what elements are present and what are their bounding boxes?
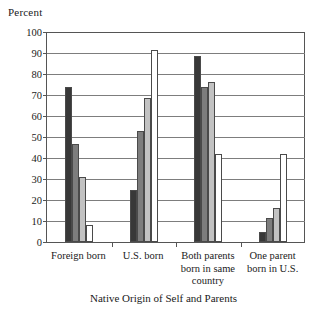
x-axis-label-line: One parent [241, 250, 304, 263]
bar [79, 177, 86, 242]
bar [280, 154, 287, 242]
y-axis-tick-label: 40 [32, 153, 43, 164]
x-axis-category-labels: Foreign bornU.S. bornBoth parentsborn in… [46, 250, 305, 288]
bar-group [176, 32, 241, 242]
bar-chart: Percent 0102030405060708090100 Foreign b… [0, 0, 327, 326]
x-axis-category-label: Foreign born [46, 250, 111, 288]
x-axis-label-line: born in same [177, 263, 240, 276]
y-axis-tick-label: 60 [32, 111, 43, 122]
y-axis-tick-label: 0 [37, 237, 42, 248]
bar-group [241, 32, 306, 242]
bar-group [47, 32, 112, 242]
y-axis-tick-label: 80 [32, 69, 43, 80]
x-axis-label-line: Foreign born [47, 250, 110, 263]
bar [144, 98, 151, 242]
bar [151, 50, 158, 242]
x-axis-label-line: U.S. born [112, 250, 175, 263]
y-axis-tick-label: 90 [32, 48, 43, 59]
x-axis-label-line: country [177, 275, 240, 288]
x-axis-label-line: born in U.S. [241, 263, 304, 276]
bar [208, 82, 215, 242]
bar [273, 208, 280, 242]
plot-area: 0102030405060708090100 [46, 32, 305, 243]
x-axis-category-label: U.S. born [111, 250, 176, 288]
y-axis-tickmark [43, 242, 47, 243]
bar [215, 154, 222, 242]
bar [130, 190, 137, 243]
x-axis-category-label: One parentborn in U.S. [240, 250, 305, 288]
x-axis-tickmark [176, 242, 177, 247]
y-axis-tick-label: 70 [32, 90, 43, 101]
bar [72, 144, 79, 242]
y-axis-tick-label: 20 [32, 195, 43, 206]
bar-group [112, 32, 177, 242]
y-axis-tick-label: 30 [32, 174, 43, 185]
bar [137, 131, 144, 242]
x-axis-category-label: Both parentsborn in samecountry [176, 250, 241, 288]
x-axis-tickmark [112, 242, 113, 247]
bar [266, 218, 273, 242]
y-axis-title: Percent [8, 6, 42, 18]
x-axis-title: Native Origin of Self and Parents [0, 292, 327, 304]
bar [194, 56, 201, 242]
bar [201, 87, 208, 242]
y-axis-tick-label: 10 [32, 216, 43, 227]
y-axis-tick-label: 50 [32, 132, 43, 143]
y-axis-tick-label: 100 [26, 27, 42, 38]
x-axis-label-line: Both parents [177, 250, 240, 263]
bar [259, 232, 266, 243]
bar-groups [47, 32, 305, 242]
x-axis-tickmark [241, 242, 242, 247]
bar [86, 225, 93, 242]
bar [65, 87, 72, 242]
